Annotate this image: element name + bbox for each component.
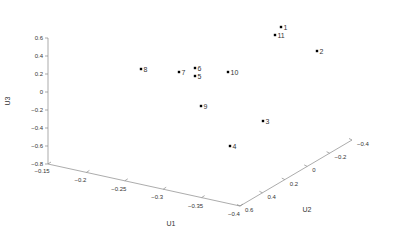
point-label: 1 <box>284 24 288 31</box>
y-tick-label: 0.4 <box>267 194 276 200</box>
x-axis-label: U1 <box>167 220 176 227</box>
data-point: 7 <box>178 69 186 76</box>
point-label: 10 <box>231 69 239 76</box>
chart-canvas: 0.60.40.20−0.2−0.4−0.6−0.8 −0.15−0.2−0.2… <box>0 0 394 237</box>
z-tick-label: 0 <box>40 89 44 95</box>
point-marker <box>262 120 264 122</box>
point-marker <box>229 145 231 147</box>
z-tick-label: 0.2 <box>35 71 44 77</box>
x-axis: −0.15−0.2−0.25−0.3−0.35−0.4 <box>34 162 243 217</box>
y-tick-label: 0 <box>312 167 316 173</box>
z-axis-label: U3 <box>4 96 11 105</box>
x-tick-label: −0.3 <box>151 194 164 200</box>
point-label: 3 <box>266 118 270 125</box>
y-tick-label: −0.2 <box>335 154 348 160</box>
y-axis-label: U2 <box>303 206 312 213</box>
z-tick-label: −0.6 <box>31 143 44 149</box>
x-tick-label: −0.2 <box>74 177 87 183</box>
point-marker <box>178 71 180 73</box>
z-axis: 0.60.40.20−0.2−0.4−0.6−0.8 <box>31 35 48 167</box>
data-point: 2 <box>316 48 324 55</box>
z-tick-label: 0.4 <box>35 53 44 59</box>
point-label: 9 <box>204 103 208 110</box>
data-point: 4 <box>229 143 237 150</box>
point-marker <box>194 75 196 77</box>
scatter-3d-chart: 0.60.40.20−0.2−0.4−0.6−0.8 −0.15−0.2−0.2… <box>0 0 394 237</box>
y-tick-label: −0.4 <box>357 141 370 147</box>
data-point: 3 <box>262 118 270 125</box>
data-points: 1112876510934 <box>140 24 324 150</box>
point-marker <box>227 71 229 73</box>
point-label: 7 <box>182 69 186 76</box>
z-tick-label: −0.4 <box>31 125 44 131</box>
point-label: 11 <box>278 32 285 39</box>
data-point: 5 <box>194 73 202 80</box>
point-label: 4 <box>233 143 237 150</box>
point-label: 6 <box>198 65 202 72</box>
z-tick-label: 0.6 <box>35 35 44 41</box>
data-point: 1 <box>280 24 288 31</box>
point-marker <box>200 105 202 107</box>
point-marker <box>274 34 276 36</box>
y-tick-label: 0.2 <box>290 181 299 187</box>
data-point: 6 <box>194 65 202 72</box>
data-point: 10 <box>227 69 239 76</box>
y-axis: 0.60.40.20−0.2−0.4 <box>237 139 370 214</box>
point-marker <box>140 68 142 70</box>
x-tick-label: −0.15 <box>34 168 50 174</box>
x-tick-label: −0.4 <box>228 211 241 217</box>
point-label: 8 <box>144 66 148 73</box>
data-point: 8 <box>140 66 148 73</box>
x-tick-label: −0.35 <box>188 203 204 209</box>
z-tick-label: −0.8 <box>31 161 44 167</box>
z-tick-label: −0.2 <box>31 107 44 113</box>
point-marker <box>316 50 318 52</box>
point-label: 5 <box>198 73 202 80</box>
data-point: 11 <box>274 32 285 39</box>
point-label: 2 <box>320 48 324 55</box>
y-tick-label: 0.6 <box>245 207 254 213</box>
point-marker <box>280 26 282 28</box>
data-point: 9 <box>200 103 208 110</box>
point-marker <box>194 67 196 69</box>
x-tick-label: −0.25 <box>111 186 127 192</box>
